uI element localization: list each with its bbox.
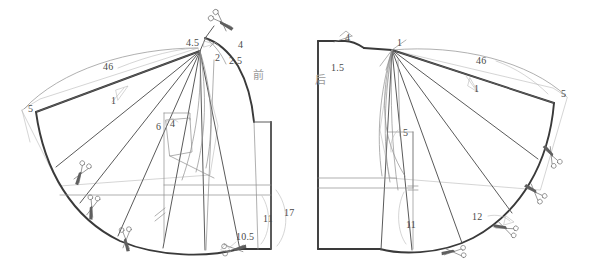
measurement-back-side-rise: 5 (561, 89, 566, 99)
measurement-front-shoulder-slope: 4.5 (186, 38, 199, 48)
measurement-back-neck-drop: 4 (345, 33, 350, 43)
measurement-front-side-rise: 5 (28, 104, 33, 114)
scissors-icon (524, 178, 549, 205)
measurement-front-pocket-width: 6 (156, 122, 161, 132)
front-spread-lines (36, 51, 240, 250)
cut-marks-group (68, 8, 564, 259)
scissors-icon (68, 158, 93, 185)
back-outline-hem (380, 103, 554, 252)
scissors-icon (117, 226, 132, 252)
measurement-front-hem-sweep: 46 (103, 62, 113, 72)
measurement-front-side-length: 17 (284, 208, 294, 218)
measurement-front-hem-offset: 10.5 (236, 232, 254, 242)
back-armhole-curve (385, 50, 405, 176)
measurement-back-hem-sweep: 46 (476, 56, 486, 66)
measurement-front-hip-height: 11 (263, 214, 273, 224)
back-shoulder (364, 48, 392, 50)
back-panel-geometry (318, 31, 567, 252)
measurement-front-dart-a: 2 (215, 53, 220, 63)
dimension-leaders (112, 41, 548, 252)
measurement-back-hem-offset: 12 (472, 212, 482, 222)
measurement-back-spread-1: 1 (474, 84, 479, 94)
front-neck-shoulder (205, 38, 254, 122)
measurement-front-pocket-depth: 4 (170, 119, 175, 129)
front-panel-label: 前 (253, 70, 264, 81)
pattern-drawing-canvas: .heavy { fill:none; stroke:#3a3a3a; stro… (0, 0, 591, 280)
measurement-back-shoulder-slope: 1 (397, 38, 402, 48)
scissors-icon (493, 216, 521, 239)
measurement-front-spread-1: 1 (111, 96, 116, 106)
double-slash-icon (155, 208, 165, 221)
scissors-icon (206, 8, 234, 38)
measurement-front-neck-drop: 4 (238, 40, 243, 50)
measurement-back-armhole: 5 (403, 128, 408, 138)
pattern-sheet: .heavy { fill:none; stroke:#3a3a3a; stro… (0, 0, 591, 280)
measurement-front-dart-b: 2.5 (229, 56, 242, 66)
measurement-back-dart: 1.5 (331, 63, 344, 73)
back-neckline (318, 41, 364, 48)
measurement-back-hip-height: 11 (406, 220, 416, 230)
back-panel-label: 后 (315, 75, 326, 86)
